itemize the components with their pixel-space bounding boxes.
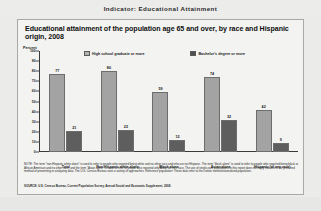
bar-value-label: 32 — [227, 115, 231, 119]
indicator-header: Indicator: Educational Attainment — [0, 0, 321, 17]
bar-value-label: 22 — [124, 125, 128, 129]
bar: 21 — [66, 131, 82, 152]
bar: 77 — [49, 74, 65, 152]
bar: 9 — [273, 143, 289, 152]
chart-title: Educational attainment of the population… — [25, 25, 297, 42]
bar-value-label: 12 — [175, 135, 179, 139]
y-tick-label: 20 — [32, 130, 36, 134]
bar-group: 5912 — [147, 51, 191, 152]
page-bottom-strip — [0, 197, 321, 211]
y-tick-label: 40 — [32, 110, 36, 114]
y-tick-label: 60 — [32, 89, 36, 93]
plot-area: 0102030405060708090100 77218022591274324… — [23, 51, 299, 163]
y-tick-label: 70 — [32, 79, 36, 83]
bar: 42 — [256, 110, 272, 152]
y-tick-label: 90 — [32, 59, 36, 63]
bar: 22 — [118, 130, 134, 152]
y-tick-label: 80 — [32, 69, 36, 73]
bar: 59 — [152, 92, 168, 152]
y-tick-label: 30 — [32, 120, 36, 124]
y-axis-ticks: 0102030405060708090100 — [23, 51, 38, 152]
bar: 80 — [101, 71, 117, 152]
bar-value-label: 59 — [158, 87, 162, 91]
bar-group: 429 — [250, 51, 294, 152]
chart-note: NOTE: The term "non-Hispanic white alone… — [24, 163, 299, 174]
screenshot-page: Indicator: Educational Attainment Educat… — [0, 0, 321, 211]
y-tick-label: 100 — [30, 49, 36, 53]
bar-value-label: 42 — [262, 105, 266, 109]
chart-panel: Educational attainment of the population… — [17, 19, 304, 195]
bar-group: 8022 — [95, 51, 139, 152]
bar-value-label: 77 — [55, 69, 59, 73]
bar-group: 7432 — [199, 51, 243, 152]
bar: 74 — [204, 77, 220, 152]
chart-source: SOURCE: U.S. Census Bureau, Current Popu… — [24, 185, 299, 189]
y-tick-label: 10 — [32, 140, 36, 144]
indicator-title: Indicator: Educational Attainment — [104, 5, 218, 12]
bar-value-label: 21 — [72, 126, 76, 130]
bar-value-label: 80 — [107, 66, 111, 70]
bar-groups: 7721802259127432429 — [40, 51, 298, 152]
bar: 12 — [169, 140, 185, 152]
y-tick-label: 50 — [32, 100, 36, 104]
bar-value-label: 9 — [280, 138, 282, 142]
bar-group: 7721 — [44, 51, 88, 152]
bar: 32 — [221, 120, 237, 152]
bar-value-label: 74 — [210, 72, 214, 76]
